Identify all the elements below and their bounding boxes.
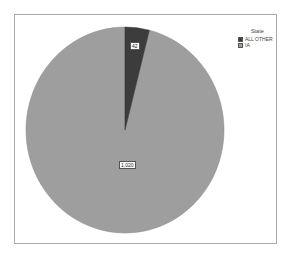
- slice-label-ia: 1,020: [119, 161, 136, 169]
- legend-label-ia: IA: [245, 42, 250, 48]
- slice-label-all-other: 42: [130, 42, 140, 50]
- legend-title: State: [242, 28, 273, 34]
- legend-item-ia: IA: [238, 42, 273, 48]
- legend-swatch-ia: [238, 43, 243, 48]
- legend-swatch-all-other: [238, 37, 243, 42]
- legend: State ALL OTHER IA: [238, 28, 273, 48]
